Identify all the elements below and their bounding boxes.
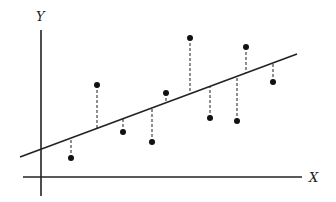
regression-line — [20, 54, 297, 157]
data-point — [120, 129, 126, 135]
residual-lines — [71, 38, 273, 158]
data-point — [187, 35, 193, 41]
data-point — [149, 139, 155, 145]
data-point — [243, 44, 249, 50]
x-axis-label: X — [308, 170, 319, 185]
data-point — [163, 90, 169, 96]
axes: Y X — [23, 9, 319, 196]
data-point — [68, 155, 74, 161]
data-point — [94, 82, 100, 88]
data-points — [68, 35, 276, 161]
regression-diagram: Y X — [0, 0, 336, 202]
y-axis-label: Y — [36, 9, 46, 24]
data-point — [207, 115, 213, 121]
data-point — [234, 118, 240, 124]
data-point — [270, 79, 276, 85]
